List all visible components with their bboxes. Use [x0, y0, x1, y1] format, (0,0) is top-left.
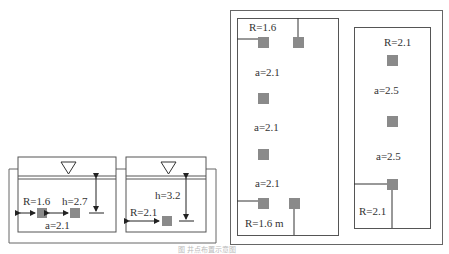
- well-point: [387, 179, 398, 190]
- well-point: [289, 198, 300, 209]
- well-layout-diagram: R=1.6 h=2.7 a=2.1 h=3.2 R=2.1: [0, 0, 449, 254]
- well-point: [387, 116, 398, 127]
- label-R: R=2.1: [130, 206, 157, 218]
- water-level-icon: [61, 162, 76, 174]
- well-point: [387, 55, 398, 66]
- tank-right: h=3.2 R=2.1: [126, 157, 206, 232]
- label-a1: a=2.5: [374, 84, 399, 96]
- label-a2: a=2.1: [254, 121, 279, 133]
- label-R-top: R=1.6: [249, 21, 277, 33]
- water-level-icon: [161, 162, 176, 174]
- label-R-bottom: R=2.1: [359, 205, 386, 217]
- well-point: [162, 216, 172, 226]
- well-point: [258, 149, 269, 160]
- label-R: R=1.6: [23, 195, 51, 207]
- plan-view: R=1.6 a=2.1 a=2.1 a=2.1 R=1.6 m R=2.1 a=…: [231, 11, 443, 245]
- well-point: [70, 208, 80, 218]
- well-point: [37, 208, 47, 218]
- label-h: h=2.7: [62, 195, 88, 207]
- label-a3: a=2.1: [255, 177, 280, 189]
- label-R-top: R=2.1: [384, 36, 411, 48]
- well-point: [258, 93, 269, 104]
- plan-left-zone: R=1.6 a=2.1 a=2.1 a=2.1 R=1.6 m: [237, 18, 339, 236]
- label-a1: a=2.1: [255, 66, 280, 78]
- well-point: [293, 37, 304, 48]
- tank-left: R=1.6 h=2.7 a=2.1: [18, 157, 116, 232]
- label-h: h=3.2: [155, 189, 180, 201]
- section-view: R=1.6 h=2.7 a=2.1 h=3.2 R=2.1: [9, 157, 216, 243]
- label-a: a=2.1: [45, 219, 70, 231]
- label-R-bottom: R=1.6 m: [245, 217, 284, 229]
- well-point: [258, 37, 269, 48]
- label-a2: a=2.5: [376, 150, 401, 162]
- well-point: [258, 198, 269, 209]
- figure-caption: 图 井点布置示意图: [178, 245, 236, 254]
- plan-right-zone: R=2.1 a=2.5 a=2.5 R=2.1: [354, 28, 431, 229]
